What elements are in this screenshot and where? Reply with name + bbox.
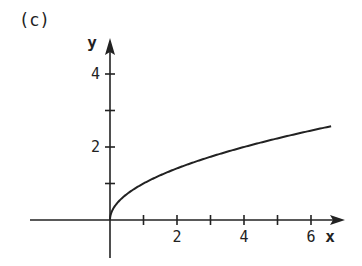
tick-labels: 24624xy <box>87 33 335 246</box>
ticks <box>105 74 311 225</box>
x-tick-label: 2 <box>172 228 181 246</box>
y-tick-label: 4 <box>91 65 100 83</box>
curve-sqrt <box>110 126 331 220</box>
chart: 24624xy <box>0 0 362 266</box>
x-axis-label: x <box>325 227 335 246</box>
x-tick-label: 6 <box>306 228 315 246</box>
axes <box>30 38 345 258</box>
y-tick-label: 2 <box>91 138 100 156</box>
x-tick-label: 4 <box>239 228 248 246</box>
y-axis-label: y <box>87 33 97 52</box>
